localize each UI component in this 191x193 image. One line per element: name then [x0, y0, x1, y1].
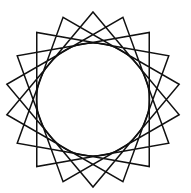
star-polygon-diagram [0, 0, 191, 193]
background [0, 0, 191, 193]
